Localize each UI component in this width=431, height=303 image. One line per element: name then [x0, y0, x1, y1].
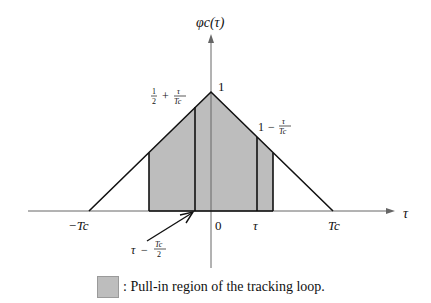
svg-text:1: 1 [152, 87, 156, 96]
autocorrelation-diagram: φc(τ) τ 1 −Tc 0 τ Tc 1 2 + τ Tc 1 − τ Tc… [0, 0, 431, 303]
x-axis-label: τ [403, 206, 409, 221]
svg-text:τ: τ [282, 117, 286, 126]
legend-swatch [97, 276, 119, 298]
y-axis-arrow-icon [208, 34, 214, 43]
peak-label: 1 [218, 79, 225, 94]
svg-text:−: − [268, 120, 275, 134]
svg-text:Tc: Tc [279, 127, 287, 136]
right-value-label: 1 − τ Tc [258, 117, 291, 136]
x-axis-arrow-icon [386, 208, 395, 214]
arrow-value-label: τ − Tc 2 [131, 240, 166, 259]
svg-text:−: − [141, 243, 148, 257]
svg-text:+: + [162, 89, 169, 103]
tick-tc: Tc [328, 218, 340, 233]
svg-text:τ: τ [177, 87, 181, 96]
svg-text:1: 1 [258, 120, 264, 134]
y-axis-label: φc(τ) [196, 15, 225, 31]
tick-zero: 0 [215, 218, 222, 233]
pointer-arrow [147, 213, 192, 241]
svg-text:τ: τ [131, 243, 136, 257]
svg-text:Tc: Tc [174, 97, 182, 106]
left-value-label: 1 2 + τ Tc [151, 87, 186, 106]
legend-text: : Pull-in region of the tracking loop. [123, 279, 325, 295]
legend: : Pull-in region of the tracking loop. [97, 276, 325, 298]
tick-neg-tc: −Tc [68, 218, 89, 233]
svg-text:2: 2 [152, 97, 156, 106]
tick-tau: τ [253, 218, 259, 233]
svg-text:2: 2 [157, 250, 161, 259]
svg-text:Tc: Tc [155, 240, 163, 249]
